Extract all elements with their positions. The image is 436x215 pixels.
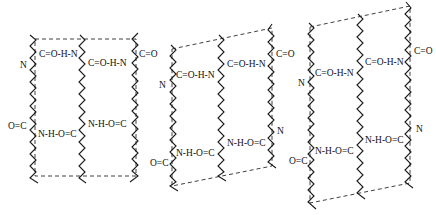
- nitrogen-label: N: [416, 124, 423, 134]
- polymer-chain: [405, 2, 413, 188]
- hbond-label: C=O-H-N: [227, 59, 266, 69]
- nitrogen-label: N: [159, 80, 166, 90]
- panel-3: C=O-H-N C=O-H-N N C=O O=C N-H-O=C N-H-O=…: [289, 2, 433, 209]
- hbond-label: C=O-H-N: [176, 70, 215, 80]
- carbonyl-label: O=C: [289, 156, 308, 166]
- carbonyl-label: O=C: [150, 158, 169, 168]
- polymer-chain: [308, 23, 316, 209]
- polyamide-sheet-diagram: C=O-H-N C=O-H-N N C=O O=C N-H-O=C N-H-O=…: [0, 0, 436, 215]
- carbonyl-label: O=C: [8, 121, 27, 131]
- panel-1: C=O-H-N C=O-H-N N C=O O=C N-H-O=C N-H-O=…: [8, 33, 158, 183]
- hbond-label: N-H-O=C: [227, 138, 266, 148]
- unit-cell-outline: [310, 6, 410, 203]
- panel-2: C=O-H-N C=O-H-N N C=O O=C N-H-O=C N-H-O=…: [150, 24, 295, 191]
- carbonyl-label: C=O: [276, 49, 295, 59]
- polymer-chain: [170, 45, 178, 191]
- nitrogen-label: N: [20, 60, 27, 70]
- hbond-label: N-H-O=C: [365, 135, 404, 145]
- hbond-label: C=O-H-N: [88, 58, 127, 68]
- polymer-chain: [218, 35, 226, 181]
- hbond-label: N-H-O=C: [315, 146, 354, 156]
- carbonyl-label: C=O: [414, 46, 433, 56]
- hbond-label: C=O-H-N: [365, 57, 404, 67]
- carbonyl-label: C=O: [139, 49, 158, 59]
- polymer-chain: [130, 33, 138, 182]
- hbond-label: N-H-O=C: [88, 119, 127, 129]
- polymer-chain: [79, 35, 86, 183]
- hbond-label: N-H-O=C: [176, 148, 215, 158]
- polymer-chain: [357, 14, 365, 199]
- hbond-label: C=O-H-N: [39, 49, 78, 59]
- nitrogen-label: N: [298, 78, 305, 88]
- polymer-chain: [30, 35, 38, 183]
- hbond-label: C=O-H-N: [315, 68, 354, 78]
- hbond-label: N-H-O=C: [38, 129, 77, 139]
- nitrogen-label: N: [277, 126, 284, 136]
